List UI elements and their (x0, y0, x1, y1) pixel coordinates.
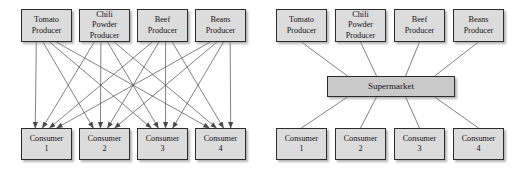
edge-p1-to-c1 (35, 42, 36, 128)
edge-hub-to-c2 (361, 97, 377, 128)
node-label: Consumer 4 (204, 134, 238, 155)
node-label: Consumer 3 (146, 134, 180, 155)
node-label: Chili Powder Producer (346, 10, 376, 42)
node-label: Supermarket (368, 81, 414, 92)
node-producer-3: Beef Producer (137, 9, 188, 42)
node-producer-1: Tomato Producer (21, 9, 72, 42)
diagram-panel-left: Tomato ProducerChili Powder ProducerBeef… (0, 0, 261, 179)
node-producer-2: Chili Powder Producer (335, 9, 386, 42)
edge-p4-to-c4 (230, 42, 231, 128)
node-consumer-4: Consumer 4 (195, 128, 246, 160)
node-label: Consumer 2 (88, 134, 122, 155)
node-producer-1: Tomato Producer (276, 9, 327, 42)
node-label: Tomato Producer (287, 15, 317, 36)
node-label: Beef Producer (148, 15, 178, 36)
edge-p2-to-hub (361, 42, 377, 76)
edge-p3-to-hub (406, 42, 420, 76)
node-label: Beef Producer (405, 15, 435, 36)
node-label: Consumer 1 (285, 134, 319, 155)
node-consumer-2: Consumer 2 (335, 128, 386, 160)
node-consumer-3: Consumer 3 (394, 128, 445, 160)
node-label: Beans Producer (206, 15, 236, 36)
node-label: Beans Producer (464, 15, 494, 36)
node-label: Consumer 4 (462, 134, 496, 155)
diagram-panel-right: Tomato ProducerChili Powder ProducerBeef… (261, 0, 522, 179)
edge-hub-to-c1 (302, 97, 348, 128)
edge-p1-to-hub (302, 42, 348, 76)
node-producer-4: Beans Producer (195, 9, 246, 42)
node-consumer-4: Consumer 4 (453, 128, 504, 160)
node-label: Chili Powder Producer (90, 10, 120, 42)
node-label: Consumer 1 (30, 134, 64, 155)
node-label: Tomato Producer (32, 15, 62, 36)
edge-hub-to-c3 (406, 97, 420, 128)
node-consumer-3: Consumer 3 (137, 128, 188, 160)
node-producer-2: Chili Powder Producer (79, 9, 130, 42)
node-consumer-1: Consumer 1 (21, 128, 72, 160)
node-consumer-1: Consumer 1 (276, 128, 327, 160)
edge-hub-to-c4 (435, 97, 479, 128)
node-label: Consumer 2 (344, 134, 378, 155)
node-producer-4: Beans Producer (453, 9, 504, 42)
node-label: Consumer 3 (403, 134, 437, 155)
node-consumer-2: Consumer 2 (79, 128, 130, 160)
node-supermarket: Supermarket (327, 76, 455, 97)
edge-p4-to-hub (435, 42, 479, 76)
node-producer-3: Beef Producer (394, 9, 445, 42)
